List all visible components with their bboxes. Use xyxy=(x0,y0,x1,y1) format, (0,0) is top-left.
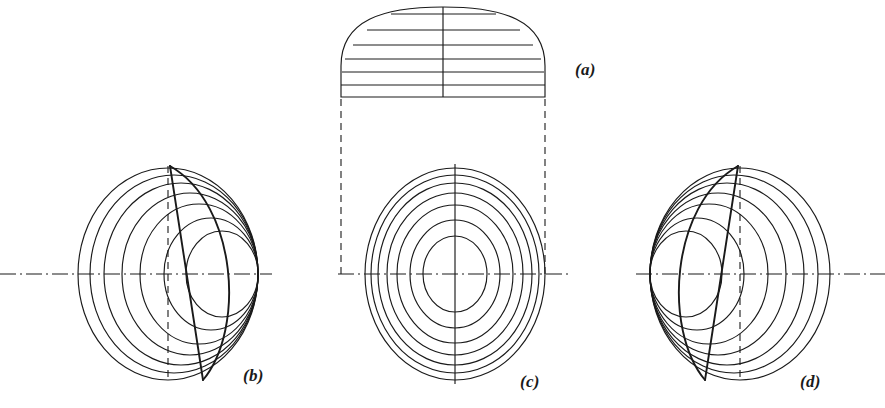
figure-d-plan-view xyxy=(636,166,885,382)
figure-c-plan-view xyxy=(338,164,572,384)
figure-label-c: (c) xyxy=(520,372,540,392)
figure-d-leaf-chord xyxy=(705,166,738,380)
figure-b-leaf-arc xyxy=(170,166,229,380)
figure-label-b: (b) xyxy=(243,366,264,386)
figure-a-dome-elevation xyxy=(341,7,545,97)
figure-b-leaf-chord xyxy=(170,166,203,380)
contour-ring-7 xyxy=(650,231,722,317)
projection-lines xyxy=(341,99,545,276)
drawing-canvas: .ln { fill:none; stroke:#1a1a1a; stroke-… xyxy=(0,0,885,408)
figure-label-d: (d) xyxy=(800,372,821,392)
figure-d-leaf-arc xyxy=(679,166,738,380)
figure-label-a: (a) xyxy=(575,60,596,80)
figure-b-plan-view xyxy=(0,166,272,382)
descriptive-geometry-plate: .ln { fill:none; stroke:#1a1a1a; stroke-… xyxy=(0,0,885,408)
